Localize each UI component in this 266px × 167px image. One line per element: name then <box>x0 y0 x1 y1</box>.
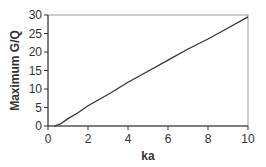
series-layer <box>54 17 248 126</box>
x-tick-label: 8 <box>205 132 212 146</box>
x-tick-label: 4 <box>125 132 132 146</box>
y-tick-label: 20 <box>29 45 43 59</box>
x-tick-label: 6 <box>165 132 172 146</box>
y-tick-label: 15 <box>29 64 43 78</box>
y-tick-label: 10 <box>29 82 43 96</box>
y-tick-label: 25 <box>29 27 43 41</box>
y-tick-label: 5 <box>35 101 42 115</box>
x-axis-title: ka <box>141 149 155 163</box>
y-tick-label: 30 <box>29 8 43 22</box>
x-tick-label: 0 <box>45 132 52 146</box>
y-tick-label: 0 <box>35 119 42 133</box>
y-axis: 051015202530 <box>29 8 48 133</box>
x-tick-label: 2 <box>85 132 92 146</box>
y-axis-title: Maximum G/Q <box>8 30 22 111</box>
x-tick-label: 10 <box>241 132 255 146</box>
x-axis: 0246810 <box>45 126 255 146</box>
series-line <box>54 17 248 126</box>
line-chart: 051015202530 0246810 ka Maximum G/Q <box>0 0 266 167</box>
